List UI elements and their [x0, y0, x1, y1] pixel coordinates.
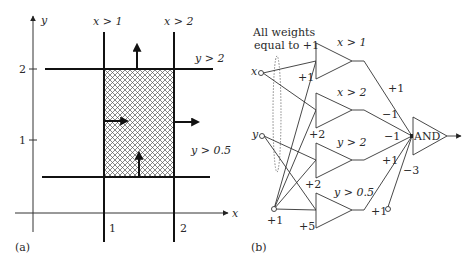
x-axis-label: x [232, 207, 239, 220]
caption-b: (b) [251, 241, 267, 254]
unit-label-x-gt-1: x > 1 [337, 36, 366, 49]
and-bias-weight: −3 [403, 164, 419, 177]
unit-label-y-gt-2: y > 2 [336, 136, 366, 149]
input-node-y [260, 134, 265, 139]
unit-label-x-gt-2: x > 2 [337, 86, 366, 99]
out-weight-4: +1 [382, 154, 398, 167]
bias-node [272, 207, 277, 212]
note-line-2: equal to +1 [254, 39, 319, 52]
y-axis-label: y [40, 14, 48, 27]
x-tick-label-1: 1 [109, 222, 116, 235]
y-tick-label-2: 2 [19, 63, 26, 76]
and-label: AND [413, 130, 441, 143]
bias-weight-3: +2 [305, 178, 321, 191]
bias-weight-2: +2 [309, 128, 325, 141]
unit-label-y-gt-0.5: y > 0.5 [333, 186, 374, 199]
out-weight-3: −1 [384, 130, 400, 143]
bias-label: +1 [267, 214, 283, 227]
y-tick-label-1: 1 [19, 134, 26, 147]
input-node-x [259, 71, 264, 76]
bias-weight-4: +5 [299, 220, 315, 233]
and-bias-label: +1 [371, 205, 387, 218]
label-y-gt-2: y > 2 [194, 52, 224, 65]
label-x-gt-2: x > 2 [164, 15, 193, 28]
label-x-gt-1: x > 1 [93, 15, 122, 28]
out-weight-1: +1 [388, 82, 404, 95]
bias-weight-1: +1 [298, 71, 314, 84]
out-weight-2: −1 [382, 108, 398, 121]
figure: y x 2 1 1 2 x > 1 x > 2 y > 2 y > 0.5 (a… [0, 0, 472, 263]
input-x-label: x [251, 65, 258, 78]
panel-a: y x 2 1 1 2 x > 1 x > 2 y > 2 y > 0.5 (a… [15, 14, 239, 254]
input-y-label: y [251, 128, 259, 141]
caption-a: (a) [15, 241, 30, 254]
note-line-1: All weights [252, 26, 315, 39]
x-tick-label-2: 2 [180, 222, 187, 235]
label-y-gt-0.5: y > 0.5 [190, 144, 231, 157]
